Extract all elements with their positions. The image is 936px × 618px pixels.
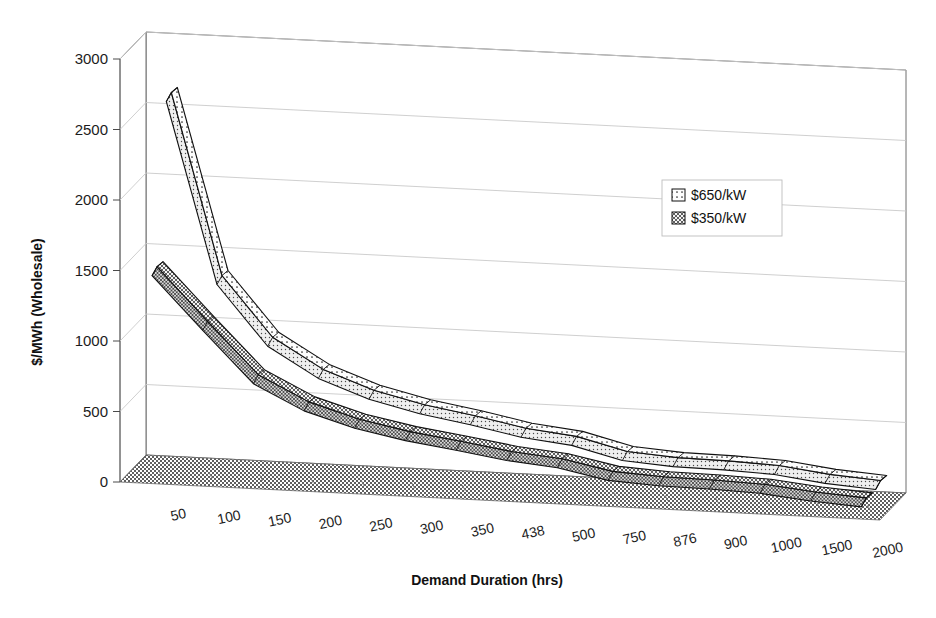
y-tick-label: 1500 [75, 262, 108, 279]
legend-label: $350/kW [691, 210, 747, 226]
x-tick-label: 500 [571, 524, 597, 545]
chart-container: 050010001500200025003000 501001502002503… [0, 0, 936, 618]
x-tick-label: 300 [419, 517, 445, 538]
y-tick-label: 2000 [75, 191, 108, 208]
x-tick-label: 250 [368, 514, 394, 535]
legend-label: $650/kW [691, 187, 747, 203]
crosshatch-swatch [672, 212, 685, 224]
y-tick-label: 1000 [75, 332, 108, 349]
x-tick-label: 1500 [820, 536, 854, 558]
x-axis-title-text: Demand Duration (hrs) [411, 572, 563, 588]
y-tick-label: 0 [100, 473, 108, 490]
y-tick-label: 2500 [75, 121, 108, 138]
x-tick-label: 2000 [871, 539, 905, 561]
x-tick-label: 100 [216, 507, 242, 528]
y-axis-title-text: $/MWh (Wholesale) [29, 238, 45, 366]
y-axis-ticks: 050010001500200025003000 [75, 50, 120, 490]
chart-legend: $650/kW$350/kW [662, 180, 782, 236]
x-tick-label: 50 [169, 505, 188, 524]
y-axis-title: $/MWh (Wholesale) [29, 238, 45, 366]
x-tick-label: 200 [317, 512, 343, 533]
dotted-swatch [672, 189, 685, 201]
x-tick-label: 750 [621, 527, 647, 548]
x-axis-title: Demand Duration (hrs) [411, 572, 563, 588]
x-tick-label: 150 [267, 509, 293, 530]
chart-canvas: 050010001500200025003000 501001502002503… [0, 0, 936, 618]
x-tick-label: 350 [469, 519, 495, 540]
x-tick-label: 1000 [769, 534, 803, 556]
y-tick-label: 3000 [75, 50, 108, 67]
x-tick-label: 900 [723, 532, 749, 553]
y-tick-label: 500 [83, 403, 108, 420]
x-tick-label: 438 [520, 522, 546, 543]
x-tick-label: 876 [672, 529, 698, 550]
